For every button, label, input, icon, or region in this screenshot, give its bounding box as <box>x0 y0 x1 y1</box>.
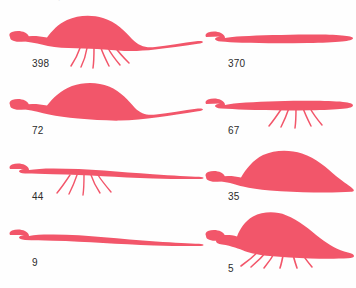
specimen-398-trunk <box>19 16 203 51</box>
specimen-44-label: 44 <box>32 192 44 202</box>
specimen-67-body <box>206 98 353 110</box>
specimen-398-label: 398 <box>32 59 49 69</box>
specimen-5-label: 5 <box>228 264 234 274</box>
specimen-44-legs <box>57 175 111 195</box>
specimen-72-label: 72 <box>32 126 44 136</box>
specimen-67-legs <box>269 108 322 128</box>
top-edge-bleed-text: . <box>0 0 356 9</box>
specimen-67-silhouette <box>204 80 356 136</box>
specimen-5-trunk <box>216 212 354 258</box>
specimen-35-trunk <box>215 151 354 193</box>
specimen-67-label: 67 <box>228 126 240 136</box>
specimen-35-label: 35 <box>228 192 240 202</box>
specimen-67: 67 <box>204 80 356 136</box>
specimen-72: 72 <box>8 80 204 136</box>
top-edge-bleed-text-content: . <box>58 0 348 3</box>
specimen-72-trunk <box>19 83 203 121</box>
specimen-370: 370 <box>204 12 356 70</box>
specimen-398: 398 <box>8 12 204 70</box>
specimen-370-label: 370 <box>228 59 245 69</box>
specimen-9: 9 <box>8 218 204 268</box>
specimen-44-body <box>10 163 204 179</box>
specimen-9-label: 9 <box>32 258 38 268</box>
specimen-35-silhouette <box>204 148 356 204</box>
specimen-5: 5 <box>204 212 356 276</box>
specimen-9-body <box>10 229 204 246</box>
specimen-5-silhouette <box>204 212 356 276</box>
specimen-370-body <box>206 31 353 43</box>
specimen-44: 44 <box>8 148 204 204</box>
specimen-35: 35 <box>204 148 356 204</box>
figure-root: . 398 370 72 <box>0 0 356 288</box>
specimen-370-silhouette <box>204 12 356 70</box>
